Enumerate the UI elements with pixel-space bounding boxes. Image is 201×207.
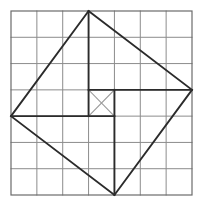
- figure-container: [0, 0, 201, 207]
- geometry-diagram: [0, 0, 201, 207]
